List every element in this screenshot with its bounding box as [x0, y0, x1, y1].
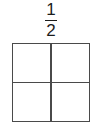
fraction-label: 1 2: [0, 2, 102, 39]
square-cell-top-left: [13, 44, 51, 83]
square-cell-bottom-right: [51, 83, 89, 122]
square-cells: [13, 44, 89, 121]
square-cell-bottom-left: [13, 83, 51, 122]
partitioned-square: [12, 43, 90, 122]
fraction-figure: 1 2: [0, 0, 102, 132]
fraction-denominator: 2: [46, 23, 55, 39]
fraction-numerator: 1: [46, 2, 55, 18]
square-cell-top-right: [51, 44, 89, 83]
horizontal-divider-line: [13, 82, 89, 84]
